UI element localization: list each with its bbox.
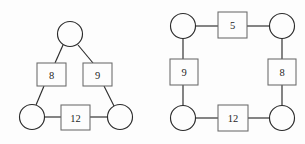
edge-weight-label-box-9: 9	[181, 67, 186, 78]
graph-vertex-v-top-right[interactable]	[270, 14, 295, 39]
edge-weight-label-box-12: 12	[70, 113, 81, 124]
graph-vertex-v-bottom-left[interactable]	[20, 105, 45, 130]
graph-vertex-v-bottom-right[interactable]	[108, 105, 133, 130]
graph-vertex-v-bottom-right[interactable]	[270, 106, 295, 131]
figure-triangle-graph: 8912	[20, 22, 133, 131]
edge-weight-label-box-8: 8	[49, 70, 54, 81]
diagram-canvas: 891259812	[0, 0, 305, 144]
graph-diagram-figure: 891259812	[0, 0, 305, 144]
graph-edge-edge-8-to-bl	[36, 86, 44, 105]
graph-edge-edge-9-to-br	[104, 86, 114, 106]
graph-edge-edge-top-to-8	[55, 45, 63, 63]
edge-weight-label-box-8: 8	[279, 67, 284, 78]
edge-weight-label-box-12: 12	[228, 113, 239, 124]
graph-vertex-v-top[interactable]	[58, 22, 83, 47]
edge-weight-label-box-5: 5	[230, 20, 235, 31]
graph-edge-edge-top-to-9	[78, 45, 93, 63]
graph-vertex-v-top-left[interactable]	[171, 14, 196, 39]
graph-vertex-v-bottom-left[interactable]	[171, 106, 196, 131]
edge-weight-label-box-9: 9	[95, 70, 100, 81]
figure-square-graph: 59812	[170, 12, 296, 131]
